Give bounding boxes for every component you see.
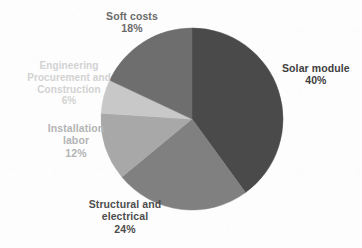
pie-chart-figure: Solar module 40% Soft costs 18% Engineer… <box>0 0 362 248</box>
pie-label-installation-labor: Installation labor 12% <box>28 122 124 159</box>
pie-label-structural-electrical-value: 24% <box>66 223 184 235</box>
pie-label-solar-module-value: 40% <box>282 74 350 86</box>
pie-label-epc-line1: Engineering <box>10 60 128 72</box>
pie-label-structural-electrical: Structural and electrical 24% <box>66 198 184 235</box>
pie-label-soft-costs-value: 18% <box>80 22 184 34</box>
pie-label-epc-value: 6% <box>10 95 128 107</box>
pie-label-soft-costs-text: Soft costs <box>80 10 184 22</box>
pie-label-structural-electrical-line2: electrical <box>66 210 184 222</box>
pie-slice-group <box>101 28 283 210</box>
pie-label-installation-labor-value: 12% <box>28 147 124 159</box>
pie-label-installation-labor-line1: Installation <box>28 122 124 134</box>
pie-label-epc-line2: Procurement and <box>10 72 128 84</box>
pie-label-solar-module: Solar module 40% <box>282 62 350 87</box>
pie-label-epc-line3: Construction <box>10 84 128 96</box>
pie-label-solar-module-text: Solar module <box>282 62 350 74</box>
pie-label-structural-electrical-line1: Structural and <box>66 198 184 210</box>
pie-label-engineering-procurement-construction: Engineering Procurement and Construction… <box>10 60 128 107</box>
pie-label-installation-labor-line2: labor <box>28 134 124 146</box>
pie-label-soft-costs: Soft costs 18% <box>80 10 184 35</box>
